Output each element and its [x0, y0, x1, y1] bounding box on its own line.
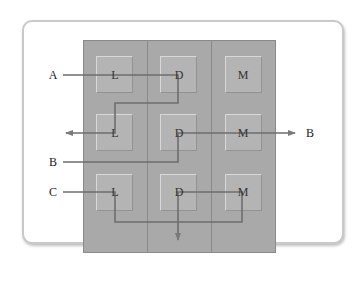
- label-b-left: B: [49, 155, 57, 170]
- cell-label-r2-c2: D: [175, 126, 184, 141]
- cell-label-r3-c3: M: [238, 185, 249, 200]
- cell-label-r2-c3: M: [238, 126, 249, 141]
- flow-lines: [0, 0, 359, 286]
- cell-label-r1-c3: M: [238, 68, 249, 83]
- cell-label-r3-c2: D: [175, 185, 184, 200]
- cell-label-r1-c1: L: [111, 68, 118, 83]
- cell-label-r1-c2: D: [175, 68, 184, 83]
- cell-label-r3-c1: L: [111, 185, 118, 200]
- label-b-right: B: [306, 126, 314, 141]
- cell-label-r2-c1: L: [111, 126, 118, 141]
- flow-c-line: [63, 192, 242, 240]
- label-c: C: [49, 185, 57, 200]
- label-a: A: [49, 68, 58, 83]
- flow-a-line: [63, 75, 178, 133]
